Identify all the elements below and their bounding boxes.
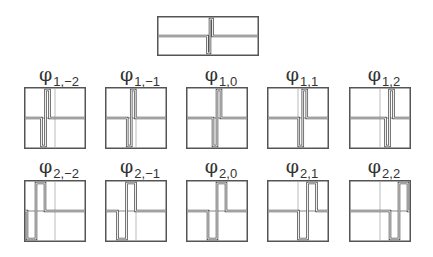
phi-symbol: φ	[120, 63, 133, 85]
phi-symbol: φ	[120, 155, 133, 177]
basis-function-label: φ1,−2	[19, 64, 99, 87]
basis-function-label: φ1,−1	[100, 64, 180, 87]
phi-symbol: φ	[286, 155, 299, 177]
plot-phi-1--2	[24, 87, 86, 149]
phi-symbol: φ	[368, 155, 381, 177]
subscript-index: 2,2	[382, 166, 400, 181]
phi-symbol: φ	[286, 63, 299, 85]
basis-function-label: φ2,1	[262, 156, 342, 179]
plot-phi-2-1	[267, 180, 329, 242]
basis-function-label: φ1,2	[344, 64, 424, 87]
phi-symbol: φ	[39, 155, 52, 177]
basis-function-label: φ2,0	[181, 156, 261, 179]
subscript-index: 2,−2	[53, 166, 79, 181]
plot-phi-2-2	[349, 180, 411, 242]
plot-phi-1--1	[105, 87, 167, 149]
phi-symbol: φ	[205, 155, 218, 177]
plot-phi-1-1	[267, 87, 329, 149]
subscript-index: 2,−1	[134, 166, 160, 181]
basis-function-label: φ1,1	[262, 64, 342, 87]
basis-function-label: φ1,0	[181, 64, 261, 87]
basis-function-label: φ2,2	[344, 156, 424, 179]
subscript-index: 2,0	[219, 166, 237, 181]
plot-phi-2--1	[105, 180, 167, 242]
phi-symbol: φ	[39, 63, 52, 85]
plot-phi-1-0	[186, 87, 248, 149]
basis-function-label: φ2,−1	[100, 156, 180, 179]
phi-symbol: φ	[205, 63, 218, 85]
plot-phi-2-0	[186, 180, 248, 242]
subscript-index: 2,1	[300, 166, 318, 181]
plot-phi-2--2	[24, 180, 86, 242]
basis-function-label: φ2,−2	[19, 156, 99, 179]
mother-wavelet-plot	[157, 16, 259, 56]
plot-phi-1-2	[349, 87, 411, 149]
phi-symbol: φ	[368, 63, 381, 85]
